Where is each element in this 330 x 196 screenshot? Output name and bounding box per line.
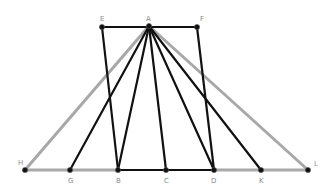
point-h [22, 167, 27, 172]
points [22, 23, 310, 172]
label-h: H [18, 159, 23, 167]
label-g: G [68, 177, 73, 185]
point-f [194, 24, 199, 29]
point-g [67, 167, 72, 172]
label-c: C [164, 177, 169, 185]
black-segments [70, 26, 261, 170]
segment-ac [149, 26, 166, 170]
label-d: D [211, 177, 216, 185]
point-e [99, 24, 104, 29]
segment-ah [25, 26, 149, 170]
point-c [163, 167, 168, 172]
point-k [258, 167, 263, 172]
point-a [146, 23, 151, 28]
label-b: B [116, 177, 121, 185]
label-e: E [100, 15, 104, 23]
point-b [115, 167, 120, 172]
label-f: F [200, 15, 204, 23]
segment-ag [70, 26, 149, 170]
label-l: L [314, 160, 318, 168]
segment-ab [118, 26, 149, 170]
label-a: A [146, 15, 151, 23]
segment-al [149, 26, 308, 170]
point-d [211, 167, 216, 172]
point-labels: AEFHGBCDKL [18, 15, 318, 185]
label-k: K [259, 177, 264, 185]
point-l [305, 167, 310, 172]
geometry-diagram: AEFHGBCDKL [0, 0, 330, 196]
